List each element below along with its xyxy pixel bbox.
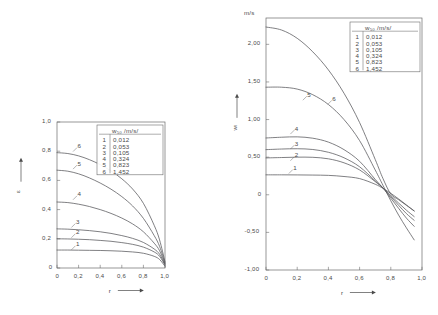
curve-1 bbox=[57, 250, 165, 266]
curve-2 bbox=[266, 157, 414, 216]
curve-label-6: 6 bbox=[78, 142, 82, 149]
curve-label-3: 3 bbox=[295, 140, 299, 147]
y-tick-label-5: 1,50 bbox=[248, 78, 260, 84]
legend-value-6: 1,452 bbox=[366, 65, 382, 72]
y-tick-label-5: 1,0 bbox=[42, 118, 51, 124]
figure-root: w₅₀ /m/s/10,01220,05330,10540,32450,8236… bbox=[0, 0, 438, 315]
curve-leader-1 bbox=[71, 246, 75, 250]
x-tick-label-1: 0,2 bbox=[292, 275, 301, 281]
curve-label-6: 6 bbox=[332, 95, 336, 102]
x-tick-label-0: 0 bbox=[55, 273, 59, 279]
curve-leader-3 bbox=[71, 224, 75, 228]
y-tick-label-4: 1,00 bbox=[248, 116, 260, 122]
x-tick-label-4: 0,8 bbox=[386, 275, 395, 281]
y-tick-label-2: 0 bbox=[258, 191, 262, 197]
x-axis-label: r bbox=[341, 289, 343, 296]
curve-2 bbox=[57, 239, 165, 265]
legend-key-6: 6 bbox=[356, 65, 360, 72]
y-tick-label-1: 0,2 bbox=[42, 235, 51, 241]
curve-label-2: 2 bbox=[76, 228, 80, 235]
plot-area-left bbox=[0, 0, 220, 315]
curve-label-1: 1 bbox=[76, 240, 80, 247]
curve-label-2: 2 bbox=[295, 151, 299, 158]
curve-1 bbox=[266, 175, 414, 211]
curve-leader-2 bbox=[71, 234, 75, 238]
y-tick-label-3: 0,50 bbox=[248, 153, 260, 159]
curve-label-4: 4 bbox=[295, 125, 299, 132]
y-unit-label: m/s bbox=[244, 9, 255, 16]
y-axis-label: ε bbox=[14, 190, 21, 193]
x-tick-label-1: 0,2 bbox=[74, 273, 83, 279]
curve-leader-4 bbox=[290, 130, 294, 134]
curve-4 bbox=[266, 137, 414, 227]
curve-leader-6 bbox=[328, 100, 332, 104]
x-axis-label: r bbox=[109, 287, 111, 294]
y-tick-label-3: 0,6 bbox=[42, 176, 51, 182]
y-tick-label-1: -0,50 bbox=[245, 228, 260, 234]
x-axis-arrowhead bbox=[140, 289, 144, 293]
x-tick-label-3: 0,6 bbox=[117, 273, 126, 279]
chart-panel-right: w₅₀ /m/s/10,01220,05330,10540,32450,8236… bbox=[218, 0, 438, 315]
curve-label-5: 5 bbox=[78, 160, 82, 167]
curve-label-1: 1 bbox=[293, 164, 297, 171]
y-tick-label-2: 0,4 bbox=[42, 206, 51, 212]
legend-header: w₅₀ /m/s/ bbox=[112, 127, 138, 134]
curve-label-5: 5 bbox=[307, 91, 311, 98]
x-tick-label-2: 0,4 bbox=[324, 275, 333, 281]
y-axis-label: wₗ bbox=[231, 124, 238, 130]
legend-header: w₅₀ /m/s/ bbox=[365, 24, 391, 31]
curve-label-3: 3 bbox=[76, 218, 80, 225]
y-tick-label-0: 0 bbox=[49, 264, 53, 270]
curve-3 bbox=[57, 229, 165, 264]
legend-value-6: 1,452 bbox=[113, 168, 129, 175]
legend-key-6: 6 bbox=[103, 168, 107, 175]
curve-leader-5 bbox=[73, 165, 77, 169]
y-axis-arrowhead bbox=[19, 158, 23, 162]
curve-3 bbox=[266, 149, 414, 221]
y-tick-label-4: 0,8 bbox=[42, 147, 51, 153]
curve-leader-1 bbox=[289, 170, 293, 174]
curve-leader-6 bbox=[73, 148, 77, 152]
curve-5 bbox=[266, 87, 414, 240]
chart-panel-left: w₅₀ /m/s/10,01220,05330,10540,32450,8236… bbox=[0, 0, 220, 315]
curve-leader-4 bbox=[73, 196, 77, 200]
y-tick-label-6: 2,00 bbox=[248, 40, 260, 46]
x-tick-label-5: 1,0 bbox=[160, 273, 169, 279]
x-tick-label-3: 0,6 bbox=[355, 275, 364, 281]
x-axis-arrowhead bbox=[372, 291, 376, 295]
x-tick-label-0: 0 bbox=[264, 275, 268, 281]
x-tick-label-4: 0,8 bbox=[139, 273, 148, 279]
curve-leader-5 bbox=[303, 96, 307, 100]
y-tick-label-0: -1,00 bbox=[245, 266, 260, 272]
x-tick-label-5: 1,0 bbox=[417, 275, 426, 281]
x-tick-label-2: 0,4 bbox=[95, 273, 104, 279]
y-axis-arrowhead bbox=[235, 94, 239, 98]
curve-label-4: 4 bbox=[78, 190, 82, 197]
